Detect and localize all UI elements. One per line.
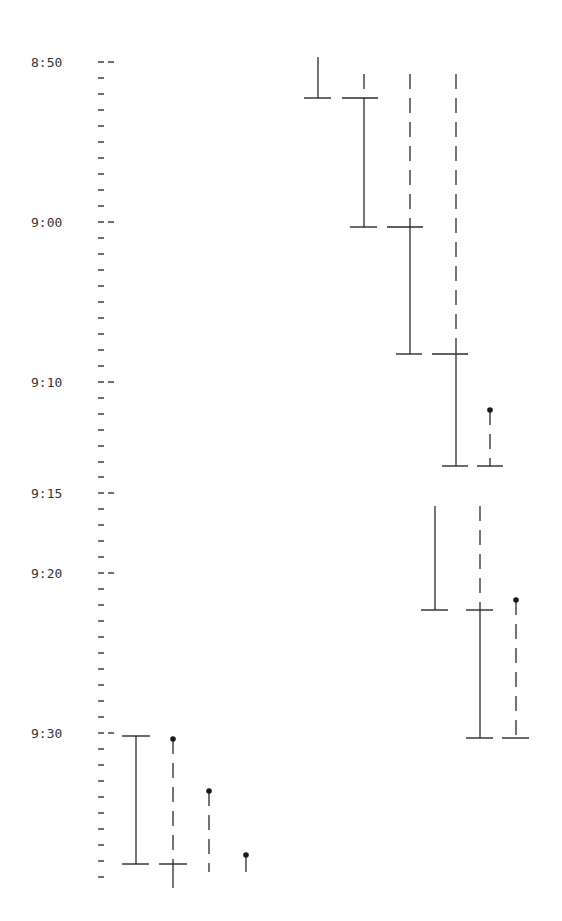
start-dot-icon	[513, 597, 519, 603]
start-dot-icon	[170, 736, 176, 742]
start-dot-icon	[243, 852, 249, 858]
start-dot-icon	[206, 788, 212, 794]
y-tick-label: 9:30	[31, 726, 62, 741]
start-dot-icon	[487, 407, 493, 413]
timeline-track	[304, 57, 331, 98]
timeline-track	[502, 597, 529, 738]
timeline-track	[387, 74, 423, 354]
timeline-track	[477, 407, 503, 466]
timeline-track	[466, 506, 493, 738]
timeline-track	[243, 852, 249, 872]
y-tick-label: 9:15	[31, 486, 62, 501]
lower-group	[122, 736, 249, 888]
timeline-track	[342, 74, 378, 227]
time-axis: 8:509:009:109:159:209:30	[31, 55, 114, 877]
timeline-track	[206, 788, 212, 872]
y-tick-label: 9:20	[31, 566, 62, 581]
timeline-track	[432, 74, 468, 466]
timeline-track	[159, 736, 187, 888]
timeline-chart: 8:509:009:109:159:209:30	[0, 0, 562, 921]
timeline-track	[421, 506, 448, 610]
y-tick-label: 9:10	[31, 375, 62, 390]
upper-group	[304, 57, 503, 466]
middle-group	[421, 506, 529, 738]
y-tick-label: 9:00	[31, 215, 62, 230]
timeline-track	[122, 736, 150, 864]
chart-tracks	[122, 57, 529, 888]
y-tick-label: 8:50	[31, 55, 62, 70]
